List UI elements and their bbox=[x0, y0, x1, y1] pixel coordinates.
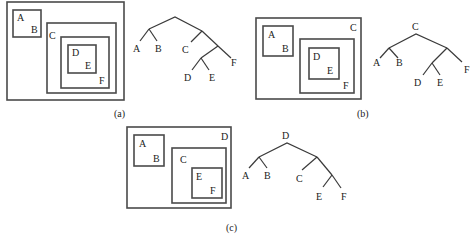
panel-a-box-label-e: E bbox=[85, 60, 91, 71]
panel-a-tree-leaf-f: F bbox=[231, 57, 237, 68]
panel-a-tree-leaf-c: C bbox=[182, 44, 189, 55]
panel-b-nested-boxes: C A B F D E bbox=[256, 18, 361, 99]
panel-c-tree-leaf-a: A bbox=[242, 170, 250, 181]
panel-c-nested-boxes: D A B C E F bbox=[127, 127, 231, 208]
panel-a-tree-leaf-a: A bbox=[133, 43, 141, 54]
panel-b-caption: (b) bbox=[357, 108, 369, 120]
panel-a-box-label-a: A bbox=[17, 12, 25, 23]
panel-b-tree-leaf-e: E bbox=[437, 77, 443, 88]
panel-c-caption: (c) bbox=[226, 222, 237, 234]
panel-c-box-label-c: C bbox=[180, 154, 187, 165]
nested-sets-diagram: A B C F D E A B C D E F (a bbox=[0, 0, 472, 234]
panel-a: A B C F D E A B C D E F (a bbox=[7, 2, 237, 120]
panel-a-tree-leaf-b: B bbox=[155, 43, 162, 54]
panel-c: D A B C E F D A B C E F (c) bbox=[127, 127, 347, 234]
panel-c-tree-leaf-f: F bbox=[341, 191, 347, 202]
panel-b-box-label-f: F bbox=[343, 80, 349, 91]
panel-b-box-label-e: E bbox=[327, 65, 333, 76]
panel-a-tree-leaf-d: D bbox=[184, 72, 191, 83]
panel-a-nested-boxes: A B C F D E bbox=[7, 2, 124, 100]
panel-a-box-label-f: F bbox=[99, 75, 105, 86]
panel-c-tree: D A B C E F bbox=[242, 130, 347, 202]
panel-a-box-label-c: C bbox=[49, 30, 56, 41]
panel-a-outer-box bbox=[7, 2, 124, 100]
panel-a-box-c bbox=[47, 23, 116, 93]
panel-b-tree-leaf-a: A bbox=[373, 57, 381, 68]
panel-c-tree-leaf-b: B bbox=[264, 170, 271, 181]
panel-c-tree-leaf-c: C bbox=[296, 173, 303, 184]
panel-b-box-label-c: C bbox=[350, 22, 357, 33]
panel-b-tree-root-c: C bbox=[412, 21, 419, 32]
panel-c-box-label-b: B bbox=[153, 153, 160, 164]
panel-b-box-label-d: D bbox=[313, 51, 320, 62]
panel-c-tree-leaf-e: E bbox=[316, 191, 322, 202]
panel-c-tree-root-d: D bbox=[282, 130, 289, 141]
panel-a-tree-leaf-e: E bbox=[209, 72, 215, 83]
panel-a-box-label-b: B bbox=[31, 24, 38, 35]
panel-b-box-label-a: A bbox=[268, 29, 276, 40]
panel-a-caption: (a) bbox=[114, 108, 125, 120]
panel-c-box-label-e: E bbox=[196, 171, 202, 182]
panel-c-box-label-a: A bbox=[139, 138, 147, 149]
panel-b-tree-leaf-b: B bbox=[396, 57, 403, 68]
panel-b: C A B F D E C A B D E F (b) bbox=[256, 18, 470, 120]
panel-c-box-label-f: F bbox=[210, 185, 216, 196]
panel-a-box-label-d: D bbox=[72, 47, 79, 58]
panel-b-box-label-b: B bbox=[282, 43, 289, 54]
panel-b-tree: C A B D E F bbox=[373, 21, 470, 88]
panel-a-tree: A B C D E F bbox=[133, 17, 237, 83]
panel-c-box-label-d: D bbox=[221, 131, 228, 142]
panel-b-tree-leaf-d: D bbox=[414, 77, 421, 88]
panel-b-tree-leaf-f: F bbox=[464, 64, 470, 75]
